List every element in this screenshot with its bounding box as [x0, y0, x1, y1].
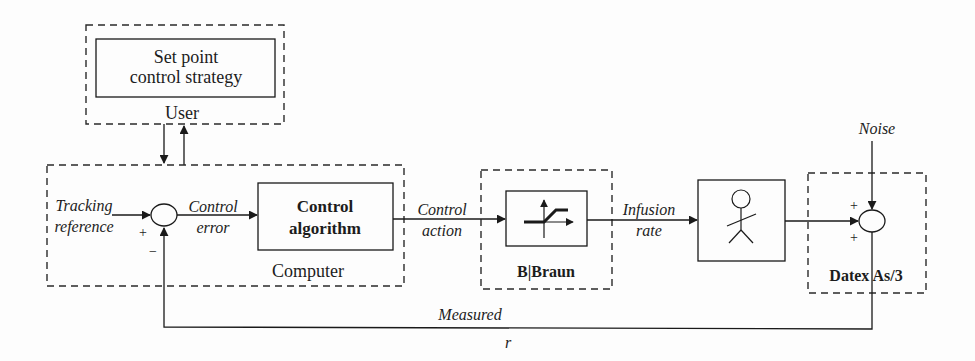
error-line1: Control [188, 196, 237, 217]
noise-label: Noise [859, 121, 895, 137]
setpoint-strategy-label: Set point control strategy [130, 47, 242, 87]
noise-summing-junction [859, 210, 885, 232]
signal-plus-sign: + [850, 231, 858, 245]
tracking-line1: Tracking [54, 195, 113, 216]
setpoint-line2: control strategy [130, 67, 242, 87]
control-error-label: Control error [188, 196, 237, 238]
measured-r-label: r [505, 335, 511, 351]
setpoint-line1: Set point [130, 47, 242, 67]
computer-group-label: Computer [272, 262, 344, 280]
measured-label: Measured [438, 307, 501, 323]
error-line2: error [188, 217, 237, 238]
tracking-line2: reference [54, 216, 113, 237]
tracking-reference-label: Tracking reference [54, 195, 113, 237]
pump-group-label: B|Braun [517, 264, 575, 280]
error-summing-junction [151, 204, 177, 226]
infusion-line1: Infusion [623, 199, 675, 220]
monitor-group-label: Datex As/3 [829, 268, 902, 284]
infusion-line2: rate [623, 220, 675, 241]
plus-sign: + [139, 226, 147, 240]
action-line1: Control [417, 199, 466, 220]
action-line2: action [417, 220, 466, 241]
control-algorithm-label: Control algorithm [289, 196, 361, 240]
user-group-label: User [165, 104, 199, 122]
algorithm-line2: algorithm [289, 218, 361, 240]
control-action-label: Control action [417, 199, 466, 241]
algorithm-line1: Control [289, 196, 361, 218]
infusion-rate-label: Infusion rate [623, 199, 675, 241]
noise-plus-sign: + [850, 199, 858, 213]
control-loop-diagram: Set point control strategy User Tracking… [0, 0, 975, 361]
minus-sign: − [149, 245, 157, 259]
